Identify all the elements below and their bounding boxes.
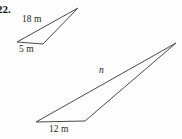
small-triangle-base-label: 5 m: [19, 44, 34, 54]
large-triangle: [36, 43, 176, 122]
worksheet-page: 22. 18 m 5 m n 12 m: [0, 0, 182, 139]
large-triangle-base-label: 12 m: [49, 124, 69, 134]
problem-number: 22.: [0, 3, 11, 15]
large-triangle-side-label: n: [99, 65, 104, 75]
similar-triangles-figure: 22. 18 m 5 m n 12 m: [0, 0, 182, 139]
small-triangle-side-label: 18 m: [22, 14, 42, 24]
